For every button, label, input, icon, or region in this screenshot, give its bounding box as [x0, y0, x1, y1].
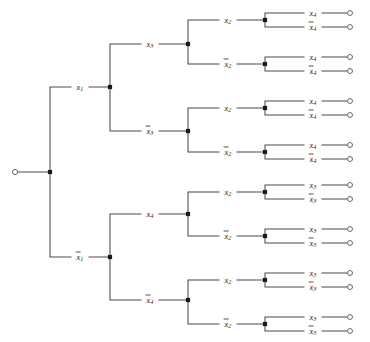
- terminal-node-16: [348, 329, 353, 334]
- junction-x2-bar-a: [263, 62, 267, 66]
- leaf-label-4: x4: [305, 65, 322, 78]
- junction-x2-a: [263, 18, 267, 22]
- terminal-node-3: [348, 55, 353, 60]
- terminal-node-2: [348, 25, 353, 30]
- edge-x1-to-x3-bar: [110, 87, 188, 131]
- terminal-node-11: [348, 227, 353, 232]
- junction-x2-c: [263, 190, 267, 194]
- label-x2-c: x2: [220, 186, 237, 199]
- label-x2-bar-a: x2: [220, 58, 237, 71]
- label-x2-bar-c: x2: [220, 230, 237, 243]
- leaf-label-14: x3: [305, 281, 322, 294]
- leaf-label-12: x3: [305, 237, 322, 250]
- root-terminal: [12, 169, 17, 174]
- junction-x2-d: [263, 278, 267, 282]
- leaf-label-2: x4: [305, 21, 322, 34]
- label-x2-d: x2: [220, 274, 237, 287]
- junction-x2-b: [263, 106, 267, 110]
- label-x2-bar-d: x2: [220, 318, 237, 331]
- terminal-node-9: [348, 183, 353, 188]
- label-x2-a: x2: [220, 14, 237, 27]
- leaf-label-7: x4: [305, 139, 322, 152]
- leaf-label-8: x4: [305, 153, 322, 166]
- leaf-label-13: x3: [305, 267, 322, 280]
- terminals-group: [348, 11, 353, 334]
- terminal-node-8: [348, 157, 353, 162]
- leaf-label-3: x4: [305, 51, 322, 64]
- label-x4-bar: x4: [142, 294, 159, 307]
- label-x1: x1: [72, 81, 89, 94]
- decision-tree-canvas: x1x1x3x3x4x4x2x2x2x2x2x2x2x2 x4x4x4x4x4x…: [0, 0, 370, 342]
- junction-x4: [186, 212, 190, 216]
- terminal-node-4: [348, 69, 353, 74]
- terminal-node-1: [348, 11, 353, 16]
- label-x3: x3: [142, 38, 159, 51]
- leaf-label-1: x4: [305, 7, 322, 20]
- leaf-label-11: x3: [305, 223, 322, 236]
- edge-root-to-x1-bar: [50, 172, 110, 257]
- junction-x1-bar: [108, 255, 112, 259]
- label-x1-bar: x1: [72, 251, 89, 264]
- junction-x2-bar-b: [263, 150, 267, 154]
- label-x4: x4: [142, 208, 159, 221]
- junction-x2-bar-c: [263, 234, 267, 238]
- terminal-node-12: [348, 241, 353, 246]
- junction-x3: [186, 42, 190, 46]
- edge-root-to-x1: [50, 87, 110, 172]
- label-x2-bar-b: x2: [220, 146, 237, 159]
- leaf-label-5: x4: [305, 95, 322, 108]
- label-x3-bar: x3: [142, 125, 159, 138]
- junction-x4-bar: [186, 298, 190, 302]
- decision-tree-figure: x1x1x3x3x4x4x2x2x2x2x2x2x2x2 x4x4x4x4x4x…: [0, 0, 370, 342]
- terminal-node-6: [348, 113, 353, 118]
- leaf-label-16: x3: [305, 325, 322, 338]
- leaf-label-9: x3: [305, 179, 322, 192]
- terminal-node-10: [348, 197, 353, 202]
- label-x2-b: x2: [220, 102, 237, 115]
- terminal-node-5: [348, 99, 353, 104]
- junction-x2-bar-d: [263, 322, 267, 326]
- leaf-label-15: x3: [305, 311, 322, 324]
- edges-group: [18, 13, 347, 331]
- leaf-label-6: x4: [305, 109, 322, 122]
- leaf-labels-group: x4x4x4x4x4x4x4x4x3x3x3x3x3x3x3x3: [305, 7, 322, 338]
- junction-root: [48, 170, 52, 174]
- edge-labels-group: x1x1x3x3x4x4x2x2x2x2x2x2x2x2: [72, 14, 237, 331]
- leaf-label-10: x3: [305, 193, 322, 206]
- terminal-node-15: [348, 315, 353, 320]
- terminal-node-14: [348, 285, 353, 290]
- junction-x3-bar: [186, 129, 190, 133]
- terminal-node-7: [348, 143, 353, 148]
- junction-x1: [108, 85, 112, 89]
- root-group: [12, 169, 17, 174]
- terminal-node-13: [348, 271, 353, 276]
